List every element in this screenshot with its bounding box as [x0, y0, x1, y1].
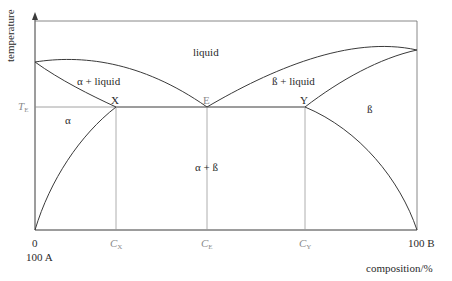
x-tick-cy: CY [299, 238, 311, 251]
x-tick-100a: 100 A [26, 252, 53, 263]
y-axis-label: temperature [4, 9, 16, 62]
region-beta: ß [367, 104, 373, 115]
phase-diagram [0, 0, 452, 281]
te-sub: E [24, 106, 28, 114]
cx-sub: X [117, 243, 122, 251]
ce-sub: E [208, 243, 212, 251]
solvus-right [305, 107, 417, 230]
x-axis-label: composition/% [366, 263, 433, 274]
region-alpha-liquid: α + liquid [77, 76, 120, 87]
x-tick-ce: CE [201, 238, 213, 251]
cy-sub: Y [306, 243, 311, 251]
x-tick-cx: CX [110, 238, 122, 251]
region-alpha-beta: α + ß [195, 162, 218, 173]
te-label: TE [18, 101, 28, 114]
point-y: Y [300, 95, 308, 106]
solvus-left [35, 107, 116, 230]
point-e: E [203, 95, 210, 106]
region-beta-liquid: ß + liquid [272, 76, 315, 87]
liquidus-left [35, 59, 207, 107]
y-axis-arrow-icon [32, 12, 38, 20]
region-alpha: α [65, 115, 71, 126]
region-liquid: liquid [193, 47, 219, 58]
x-tick-0: 0 [32, 238, 38, 249]
solidus-right [305, 50, 417, 107]
x-tick-100b: 100 B [408, 238, 435, 249]
point-x: X [111, 95, 119, 106]
